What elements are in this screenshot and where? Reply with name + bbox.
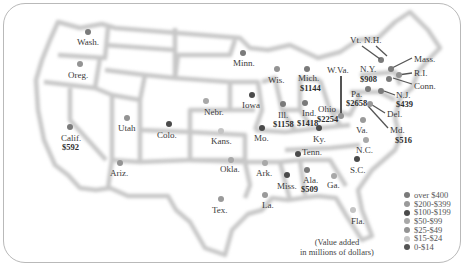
legend-swatch [404, 201, 410, 207]
legend-item: 0-$14 [404, 243, 451, 252]
units-note-line2: in millions of dollars) [300, 247, 374, 257]
state-dot-nj [378, 88, 384, 94]
units-note-line1: (Value added [300, 237, 374, 247]
state-label-nh: N.H. [364, 35, 382, 45]
legend-swatch [404, 236, 410, 242]
legend-swatch [404, 244, 410, 250]
state-dot-conn [386, 76, 392, 82]
state-label-conn: Conn. [414, 81, 436, 91]
state-label-mass: Mass. [414, 54, 435, 64]
state-label-del: Del. [387, 109, 402, 119]
state-value-nj: $439 [396, 99, 413, 109]
state-value-md: $516 [395, 135, 412, 145]
legend-swatch [404, 210, 410, 216]
units-note: (Value added in millions of dollars) [300, 237, 374, 257]
legend-swatch [404, 192, 410, 198]
legend: over $400 $200-$399 $100-$199 $50-$99 $2… [404, 191, 451, 252]
us-map: Wash. Oreg. Calif. $592 Utah Ariz. Colo.… [0, 0, 465, 267]
state-dot-ri [396, 72, 402, 78]
state-label-ri: R.I. [414, 68, 428, 78]
state-label-vt: Vt. [350, 35, 361, 45]
state-dot-del [367, 101, 373, 107]
legend-swatch [404, 227, 410, 233]
state-label-md: Md. [390, 125, 405, 135]
state-dot-mass [388, 66, 394, 72]
legend-label: 0-$14 [414, 243, 434, 252]
legend-swatch [404, 218, 410, 224]
